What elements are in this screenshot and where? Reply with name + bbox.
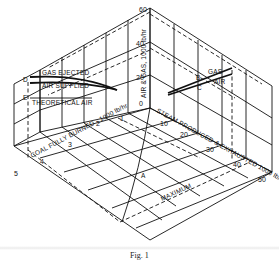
curve-a (122, 108, 150, 222)
isometric-diagram: GAS EJECTED AIR SUPPLIED THEORETICAL AIR… (0, 0, 279, 246)
svg-text:20: 20 (180, 131, 188, 138)
left-axis-label: COAL FULLY BURNED - 1000 lb/hr (29, 101, 129, 159)
page-edge (0, 246, 279, 250)
point-e-label: E (23, 94, 28, 101)
left-panel-curves: GAS EJECTED AIR SUPPLIED THEORETICAL AIR… (23, 69, 117, 106)
svg-text:50: 50 (258, 176, 266, 183)
left-ticks: 1 2 3 4 5 (14, 115, 124, 177)
vertical-axis-label: AIR & GAS, 1000 lb/hr (140, 28, 147, 98)
svg-text:3: 3 (68, 141, 72, 148)
svg-text:1: 1 (120, 115, 124, 122)
svg-text:40: 40 (233, 161, 241, 168)
svg-text:4: 4 (40, 158, 44, 165)
gas-label: GAS (208, 68, 223, 75)
air-supplied-label: AIR SUPPLIED (42, 82, 89, 89)
svg-text:5: 5 (14, 170, 18, 177)
figure-caption: Fig. 1 (130, 251, 149, 260)
svg-text:40: 40 (136, 40, 144, 47)
point-c-label: C (197, 84, 202, 91)
maximum-label: MAXIMUM (159, 182, 192, 202)
point-d-label: D (23, 76, 28, 83)
axis-labels: AIR & GAS, 1000 lb/hr COAL FULLY BURNED … (29, 28, 279, 184)
svg-text:20: 20 (136, 74, 144, 81)
point-b-label: B (196, 74, 201, 81)
gas-ejected-label: GAS EJECTED (42, 69, 89, 76)
svg-text:30: 30 (206, 146, 214, 153)
theoretical-air-label: THEORETICAL AIR (32, 99, 93, 106)
svg-text:0: 0 (139, 100, 143, 107)
floor-grid: A MAXIMUM (14, 108, 272, 240)
air-label: AIR (214, 78, 226, 85)
svg-text:10: 10 (160, 120, 168, 127)
curve-a-label: A (141, 172, 146, 179)
svg-text:60: 60 (139, 6, 147, 13)
svg-text:2: 2 (96, 120, 100, 127)
